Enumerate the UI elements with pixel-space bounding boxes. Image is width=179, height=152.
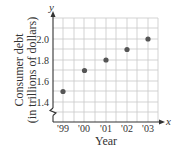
- y-axis-title-line2: (in trillions of dollars): [25, 17, 39, 123]
- x-axis-arrow-icon: [159, 120, 165, 125]
- x-tick-03: '03: [142, 123, 154, 134]
- y-axis-variable: y: [48, 1, 54, 13]
- x-tick-01: '01: [100, 123, 112, 134]
- data-point-4: [145, 36, 150, 41]
- scatter-chart: y x 1.4 1.6 1.8 2.0 '99 '00 '01 '02 '03 …: [0, 0, 179, 152]
- y-axis-title: Consumer debt (in trillions of dollars): [12, 17, 39, 123]
- x-tick-00: '00: [78, 123, 90, 134]
- data-point-2: [103, 57, 108, 62]
- grid: [53, 18, 158, 122]
- x-tick-labels: '99 '00 '01 '02 '03: [57, 123, 154, 134]
- data-point-0: [60, 89, 65, 94]
- x-axis-title: Year: [95, 134, 117, 148]
- data-point-3: [124, 47, 129, 52]
- x-axis-variable: x: [165, 115, 171, 127]
- x-tick-02: '02: [121, 123, 133, 134]
- x-tick-99: '99: [57, 123, 69, 134]
- data-point-1: [82, 68, 87, 73]
- y-axis: [50, 14, 56, 122]
- y-axis-title-line1: Consumer debt: [12, 33, 26, 107]
